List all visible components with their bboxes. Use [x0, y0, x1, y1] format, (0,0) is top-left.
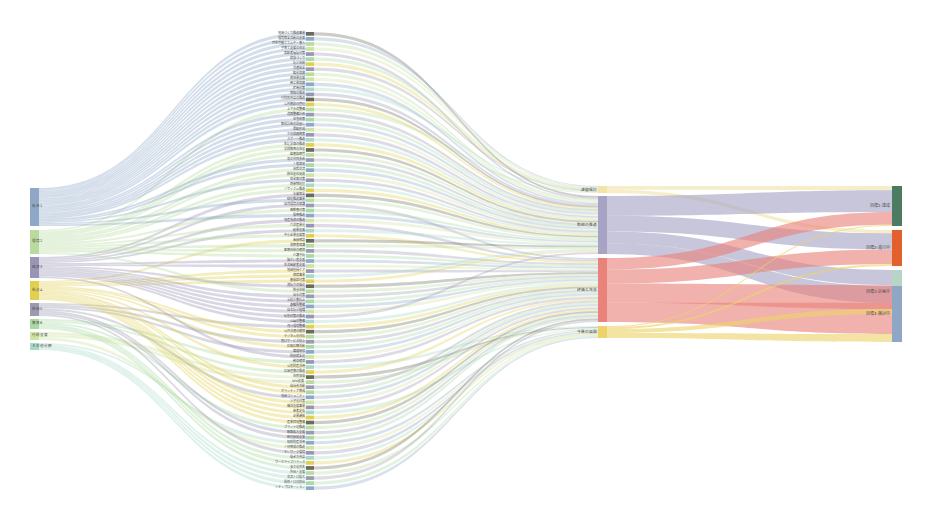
- sankey-node-middle[interactable]: [306, 194, 314, 198]
- sankey-node-col3[interactable]: [598, 196, 607, 254]
- sankey-node-middle[interactable]: [306, 98, 314, 102]
- sankey-node-middle[interactable]: [306, 406, 314, 410]
- sankey-node-middle[interactable]: [306, 380, 314, 384]
- sankey-node-middle[interactable]: [306, 325, 314, 329]
- sankey-node-col3[interactable]: [598, 326, 607, 338]
- sankey-node-middle[interactable]: [306, 77, 314, 81]
- sankey-node-middle[interactable]: [306, 411, 314, 415]
- sankey-node-middle[interactable]: [306, 294, 314, 298]
- sankey-node-middle[interactable]: [306, 416, 314, 420]
- sankey-node-middle[interactable]: [306, 224, 314, 228]
- sankey-node-middle[interactable]: [306, 355, 314, 359]
- sankey-node-middle[interactable]: [306, 234, 314, 238]
- sankey-node-middle[interactable]: [306, 239, 314, 243]
- sankey-node-middle[interactable]: [306, 441, 314, 445]
- sankey-node-middle[interactable]: [306, 249, 314, 253]
- sankey-node-middle[interactable]: [306, 103, 314, 107]
- sankey-node-middle[interactable]: [306, 264, 314, 268]
- sankey-node-middle[interactable]: [306, 446, 314, 450]
- sankey-node-middle[interactable]: [306, 330, 314, 334]
- sankey-node-middle[interactable]: [306, 274, 314, 278]
- sankey-node-middle[interactable]: [306, 476, 314, 480]
- sankey-node-middle[interactable]: [306, 436, 314, 440]
- sankey-node-middle[interactable]: [306, 365, 314, 369]
- sankey-node-middle[interactable]: [306, 466, 314, 470]
- sankey-node-middle[interactable]: [306, 148, 314, 152]
- sankey-node-middle[interactable]: [306, 143, 314, 147]
- sankey-node-middle[interactable]: [306, 199, 314, 203]
- sankey-node-middle[interactable]: [306, 62, 314, 66]
- sankey-node-middle[interactable]: [306, 254, 314, 258]
- sankey-node-middle[interactable]: [306, 128, 314, 132]
- sankey-node-middle[interactable]: [306, 32, 314, 36]
- sankey-node-middle[interactable]: [306, 395, 314, 399]
- sankey-node-middle[interactable]: [306, 340, 314, 344]
- sankey-node-middle[interactable]: [306, 163, 314, 167]
- sankey-node-middle[interactable]: [306, 370, 314, 374]
- sankey-node-right[interactable]: [892, 186, 902, 226]
- sankey-node-middle[interactable]: [306, 320, 314, 324]
- sankey-node-middle[interactable]: [306, 431, 314, 435]
- sankey-node-middle[interactable]: [306, 461, 314, 465]
- sankey-node-middle[interactable]: [306, 229, 314, 233]
- sankey-node-middle[interactable]: [306, 350, 314, 354]
- sankey-node-middle[interactable]: [306, 88, 314, 92]
- sankey-node-middle[interactable]: [306, 168, 314, 172]
- sankey-node-middle[interactable]: [306, 188, 314, 192]
- sankey-node-middle[interactable]: [306, 204, 314, 208]
- sankey-node-right[interactable]: [892, 230, 902, 266]
- sankey-node-middle[interactable]: [306, 158, 314, 162]
- sankey-node-middle[interactable]: [306, 289, 314, 293]
- sankey-node-middle[interactable]: [306, 138, 314, 142]
- sankey-node-middle[interactable]: [306, 133, 314, 137]
- sankey-node-middle[interactable]: [306, 219, 314, 223]
- sankey-node-middle[interactable]: [306, 284, 314, 288]
- sankey-node-middle[interactable]: [306, 244, 314, 248]
- sankey-node-middle[interactable]: [306, 400, 314, 404]
- sankey-node-middle[interactable]: [306, 67, 314, 71]
- sankey-node-middle[interactable]: [306, 335, 314, 339]
- sankey-node-middle[interactable]: [306, 279, 314, 283]
- sankey-node-middle[interactable]: [306, 486, 314, 490]
- sankey-node-middle[interactable]: [306, 123, 314, 127]
- sankey-node-middle[interactable]: [306, 47, 314, 51]
- sankey-node-middle[interactable]: [306, 305, 314, 309]
- sankey-node-middle[interactable]: [306, 390, 314, 394]
- sankey-node-middle[interactable]: [306, 385, 314, 389]
- sankey-node-middle[interactable]: [306, 37, 314, 41]
- sankey-node-middle[interactable]: [306, 300, 314, 304]
- sankey-node-middle[interactable]: [306, 72, 314, 76]
- sankey-label-middle: 広報広聴活動: [287, 345, 305, 348]
- sankey-node-middle[interactable]: [306, 375, 314, 379]
- sankey-node-middle[interactable]: [306, 52, 314, 56]
- sankey-node-middle[interactable]: [306, 178, 314, 182]
- sankey-node-middle[interactable]: [306, 108, 314, 112]
- sankey-node-middle[interactable]: [306, 118, 314, 122]
- sankey-node-middle[interactable]: [306, 183, 314, 187]
- sankey-node-middle[interactable]: [306, 315, 314, 319]
- sankey-node-middle[interactable]: [306, 360, 314, 364]
- sankey-node-middle[interactable]: [306, 57, 314, 61]
- sankey-node-middle[interactable]: [306, 456, 314, 460]
- sankey-node-middle[interactable]: [306, 113, 314, 117]
- sankey-node-middle[interactable]: [306, 345, 314, 349]
- sankey-node-middle[interactable]: [306, 269, 314, 273]
- sankey-node-middle[interactable]: [306, 209, 314, 213]
- sankey-node-col3[interactable]: [598, 186, 607, 193]
- sankey-node-middle[interactable]: [306, 259, 314, 263]
- sankey-node-middle[interactable]: [306, 93, 314, 97]
- sankey-node-middle[interactable]: [306, 214, 314, 218]
- sankey-node-middle[interactable]: [306, 451, 314, 455]
- sankey-node-col3[interactable]: [598, 258, 607, 322]
- sankey-node-middle[interactable]: [306, 426, 314, 430]
- sankey-node-middle[interactable]: [306, 82, 314, 86]
- sankey-node-middle[interactable]: [306, 310, 314, 314]
- sankey-node-middle[interactable]: [306, 173, 314, 177]
- sankey-label-middle: 交通安全: [293, 67, 305, 70]
- sankey-node-middle[interactable]: [306, 421, 314, 425]
- sankey-node-middle[interactable]: [306, 481, 314, 485]
- sankey-node-middle[interactable]: [306, 42, 314, 46]
- sankey-node-middle[interactable]: [306, 471, 314, 475]
- sankey-node-right[interactable]: [892, 286, 902, 342]
- sankey-node-middle[interactable]: [306, 153, 314, 157]
